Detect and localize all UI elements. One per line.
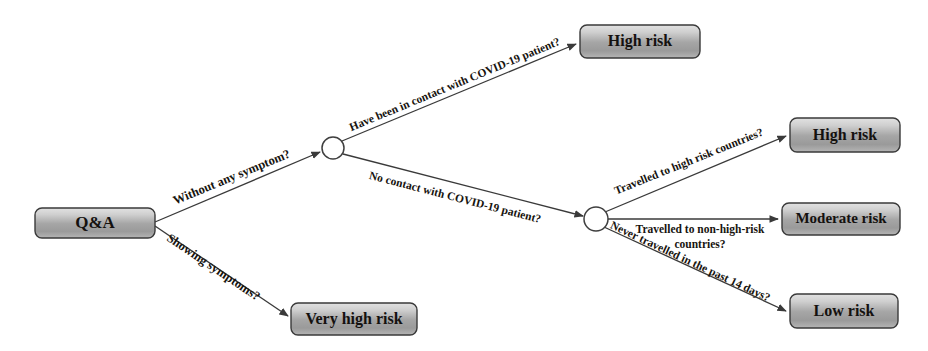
edge-contact-covid <box>342 44 576 141</box>
node-root[interactable]: Q&A <box>35 208 155 238</box>
node-high-risk-contact[interactable]: High risk <box>580 25 700 58</box>
node-low-risk[interactable]: Low risk <box>790 294 898 328</box>
node-decision2[interactable] <box>584 207 608 231</box>
edge-labels-layer: Without any symptom?Showing symptoms?Hav… <box>164 35 772 304</box>
decision-tree-diagram: Q&AHigh riskVery high riskHigh riskModer… <box>0 0 928 351</box>
node-label-root: Q&A <box>75 213 115 232</box>
node-label-very-high-risk: Very high risk <box>305 310 402 328</box>
edge-label-edge-travelled-high-risk: Travelled to high risk countries? <box>612 125 765 197</box>
edge-without-symptom <box>155 152 320 222</box>
edge-travelled-high-risk <box>605 136 786 212</box>
node-moderate-risk[interactable]: Moderate risk <box>782 203 900 235</box>
edges-layer <box>155 44 786 316</box>
edge-label-edge-no-contact-covid: No contact with COVID-19 patient? <box>368 169 543 226</box>
node-decision1[interactable] <box>322 137 344 159</box>
diagram-canvas: Q&AHigh riskVery high riskHigh riskModer… <box>0 0 928 351</box>
node-label-low-risk: Low risk <box>814 302 875 319</box>
node-label-moderate-risk: Moderate risk <box>795 210 887 226</box>
edge-no-contact-covid <box>343 154 583 216</box>
edge-label-edge-contact-covid: Have been in contact with COVID-19 patie… <box>347 35 562 134</box>
edge-label-edge-showing-symptoms: Showing symptoms? <box>164 231 263 304</box>
node-label-high-risk-travel: High risk <box>813 126 878 144</box>
node-very-high-risk[interactable]: Very high risk <box>291 303 417 335</box>
edge-label-edge-without-symptom: Without any symptom? <box>171 146 292 207</box>
node-high-risk-travel[interactable]: High risk <box>790 118 900 152</box>
node-label-high-risk-contact: High risk <box>608 32 673 50</box>
